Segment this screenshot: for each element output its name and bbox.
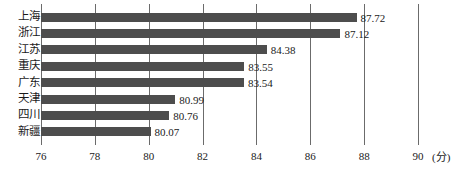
category-label: 上海 [0, 11, 40, 23]
bar-value-label: 83.54 [248, 78, 273, 89]
bar: 80.76 [41, 111, 169, 120]
bar: 83.55 [41, 62, 244, 71]
category-label: 天津 [0, 93, 40, 105]
x-tick-label: 90 [413, 151, 424, 162]
gridline-90 [418, 4, 419, 138]
bar: 80.07 [41, 127, 151, 136]
x-tick-label: 80 [143, 151, 154, 162]
bar-value-label: 80.76 [173, 111, 198, 122]
x-tick-mark [364, 138, 365, 145]
x-tick-label: 82 [197, 151, 208, 162]
bar-value-label: 87.12 [344, 29, 369, 40]
x-tick-mark [310, 138, 311, 145]
bar-value-label: 83.55 [248, 62, 273, 73]
category-label: 江苏 [0, 44, 40, 56]
bar: 87.12 [41, 29, 340, 38]
bar-row: 83.55 [41, 58, 244, 74]
x-tick-mark [41, 138, 42, 145]
x-tick-mark [95, 138, 96, 145]
bar-row: 87.72 [41, 9, 357, 25]
bar: 84.38 [41, 45, 267, 54]
bar: 83.54 [41, 78, 244, 87]
plot-area: 87.7287.1284.3883.5583.5480.9980.7680.07 [41, 4, 418, 138]
x-tick-label: 76 [36, 151, 47, 162]
x-tick-mark [203, 138, 204, 145]
x-tick-mark [149, 138, 150, 145]
x-tick-label: 78 [89, 151, 100, 162]
x-tick-mark [418, 138, 419, 145]
bar-row: 80.99 [41, 91, 175, 107]
bar-row: 83.54 [41, 75, 244, 91]
bar: 80.99 [41, 95, 175, 104]
bar-row: 87.12 [41, 25, 340, 41]
x-tick-label: 84 [251, 151, 262, 162]
bar-value-label: 80.99 [179, 95, 204, 106]
bar-row: 84.38 [41, 42, 267, 58]
x-axis-unit-label: (分) [432, 152, 450, 163]
bar-row: 80.76 [41, 107, 169, 123]
x-tick-mark [256, 138, 257, 145]
category-label: 新疆 [0, 126, 40, 138]
bar-value-label: 84.38 [271, 45, 296, 56]
bar: 87.72 [41, 13, 357, 22]
gridline-88 [364, 4, 365, 138]
bar-value-label: 87.72 [361, 13, 386, 24]
horizontal-bar-chart: 上海浙江江苏重庆广东天津四川新疆 87.7287.1284.3883.5583.… [0, 0, 461, 171]
x-tick-label: 88 [359, 151, 370, 162]
category-label: 广东 [0, 77, 40, 89]
bar-value-label: 80.07 [155, 127, 180, 138]
x-tick-label: 86 [305, 151, 316, 162]
category-label: 浙江 [0, 27, 40, 39]
category-label: 四川 [0, 109, 40, 121]
category-label: 重庆 [0, 60, 40, 72]
